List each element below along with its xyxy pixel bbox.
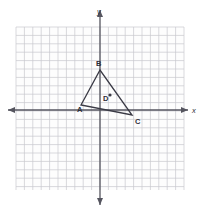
point-dots bbox=[108, 93, 111, 96]
vertex-label-c: C bbox=[135, 117, 141, 126]
x-axis-label: x bbox=[191, 106, 196, 115]
vertex-label-b: B bbox=[96, 59, 102, 68]
figure-canvas: x y ABCD bbox=[0, 0, 202, 212]
x-axis-left-arrow-icon bbox=[8, 107, 15, 113]
vertex-label-d: D bbox=[103, 94, 109, 103]
y-axis-down-arrow-icon bbox=[97, 198, 103, 205]
vertex-label-a: A bbox=[77, 105, 83, 114]
coordinate-plane-svg: x y ABCD bbox=[0, 0, 202, 212]
point-d-dot bbox=[108, 93, 111, 96]
x-axis-right-arrow-icon bbox=[181, 107, 188, 113]
